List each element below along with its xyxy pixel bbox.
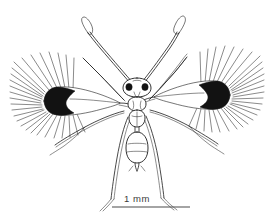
right-foreleg-tarsus (160, 54, 187, 88)
scale-bar-label: 1 mm (0, 193, 274, 205)
right-antenna (141, 16, 185, 84)
metasoma (126, 132, 148, 171)
left-antenna (82, 17, 133, 84)
left-compound-eye (126, 83, 132, 90)
insect-line-drawing (0, 0, 274, 222)
left-midleg (50, 111, 124, 155)
right-forewing (142, 46, 264, 132)
figure-root: 1 mm (0, 0, 274, 222)
right-midleg (150, 110, 224, 154)
right-compound-eye (142, 83, 148, 90)
head (123, 78, 151, 98)
mesosoma (128, 97, 146, 133)
